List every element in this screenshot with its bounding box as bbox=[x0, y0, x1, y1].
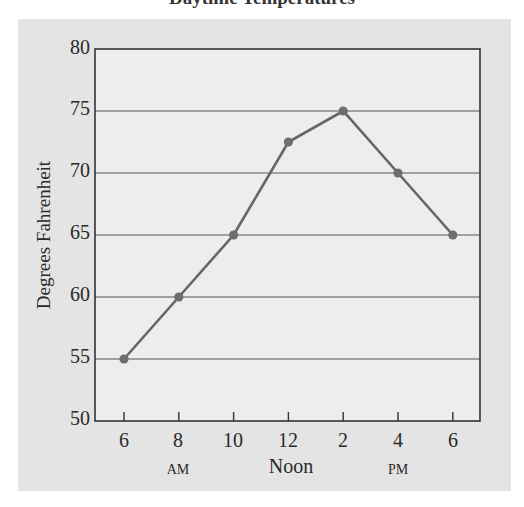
y-tick-50: 50 bbox=[50, 407, 90, 430]
y-tick-60: 60 bbox=[50, 283, 90, 306]
y-tick-75: 75 bbox=[50, 97, 90, 120]
pm-label: PM bbox=[358, 462, 438, 478]
y-tick-55: 55 bbox=[50, 345, 90, 368]
x-tick-6pm: 6 bbox=[433, 429, 473, 452]
y-tick-65: 65 bbox=[50, 221, 90, 244]
x-tick-6am: 6 bbox=[104, 429, 144, 452]
x-tick-2pm: 2 bbox=[323, 429, 363, 452]
data-point bbox=[119, 354, 128, 363]
y-tick-80: 80 bbox=[50, 36, 90, 59]
data-point bbox=[448, 230, 457, 239]
y-tick-70: 70 bbox=[50, 159, 90, 182]
am-label: AM bbox=[138, 462, 218, 478]
data-point bbox=[284, 137, 293, 146]
data-point bbox=[174, 292, 183, 301]
data-point bbox=[393, 168, 402, 177]
x-tick-4pm: 4 bbox=[378, 429, 418, 452]
x-tick-12: 12 bbox=[268, 429, 308, 452]
data-point bbox=[339, 106, 348, 115]
data-point bbox=[229, 230, 238, 239]
x-tick-10am: 10 bbox=[213, 429, 253, 452]
x-tick-8am: 8 bbox=[158, 429, 198, 452]
noon-label: Noon bbox=[251, 455, 331, 478]
